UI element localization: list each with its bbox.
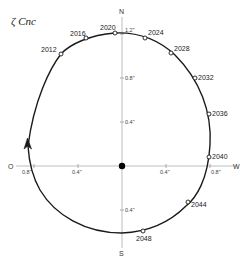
- orbit-marker-2040: [207, 155, 211, 159]
- orbit-marker-2028: [169, 51, 173, 55]
- orbit-marker-2024: [143, 36, 147, 40]
- year-label-2044: 2044: [191, 201, 207, 208]
- year-label-2012: 2012: [41, 46, 57, 53]
- year-label-2016: 2016: [70, 30, 86, 37]
- year-label-2032: 2032: [198, 74, 214, 81]
- primary-star-icon: [119, 163, 125, 169]
- orbit-marker-2032: [193, 76, 197, 80]
- south-label: S: [119, 250, 124, 257]
- orbit-marker-2036: [207, 112, 211, 116]
- tick-label-w-08: 0.8": [211, 169, 221, 175]
- year-label-2028: 2028: [174, 45, 190, 52]
- tick-label-n-08: 0.8": [125, 75, 135, 81]
- tick-label-o-04: 0.4": [72, 169, 82, 175]
- north-label: N: [119, 8, 124, 15]
- tick-label-o-08: 0.8": [22, 169, 32, 175]
- year-label-2048: 2048: [136, 235, 152, 242]
- east-label: O: [8, 163, 14, 170]
- orbit-marker-2048: [141, 229, 145, 233]
- orbit-marker-2020: [113, 31, 117, 35]
- orbit-marker-2012: [59, 52, 63, 56]
- orbit-marker-2044: [186, 200, 190, 204]
- tick-label-w-04: 0.4": [160, 169, 170, 175]
- tick-label-n-12: 1.2": [125, 27, 135, 33]
- orbit-diagram: N S O W 0.4" 0.8" 1.2" 0.4" 0.4" 0.8" 0.…: [0, 0, 252, 262]
- orbit-path: [28, 33, 210, 233]
- tick-label-s-04: 0.4": [125, 207, 135, 213]
- year-label-2024: 2024: [148, 29, 164, 36]
- year-label-2036: 2036: [212, 110, 228, 117]
- year-label-2040: 2040: [212, 153, 228, 160]
- year-label-2020: 2020: [100, 24, 116, 31]
- west-label: W: [233, 163, 240, 170]
- tick-label-n-04: 0.4": [125, 119, 135, 125]
